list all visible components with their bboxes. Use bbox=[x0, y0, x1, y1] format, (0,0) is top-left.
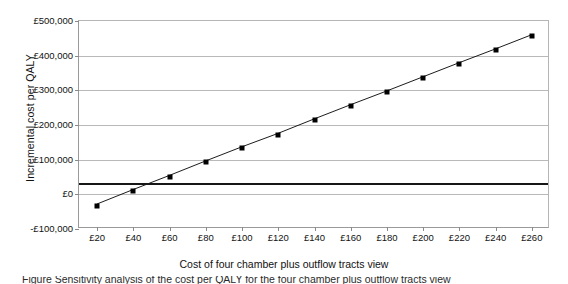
x-tick-label: £40 bbox=[125, 233, 141, 243]
x-tick-mark bbox=[242, 227, 243, 231]
threshold-line bbox=[79, 183, 548, 185]
x-tick-mark bbox=[496, 227, 497, 231]
x-tick-mark bbox=[170, 227, 171, 231]
data-point-marker bbox=[167, 175, 172, 180]
x-tick-mark bbox=[315, 227, 316, 231]
x-tick-mark bbox=[459, 227, 460, 231]
y-tick-label: £100,000 bbox=[33, 155, 73, 165]
figure-caption-clipped: Figure Sensitivity analysis of the cost … bbox=[0, 276, 568, 284]
x-tick-label: £260 bbox=[521, 233, 542, 243]
x-tick-label: £200 bbox=[413, 233, 434, 243]
y-tick-label: £0 bbox=[62, 190, 73, 200]
y-tick-mark bbox=[75, 229, 79, 230]
data-point-marker bbox=[276, 132, 281, 137]
x-tick-label: £80 bbox=[198, 233, 214, 243]
x-tick-label: £160 bbox=[340, 233, 361, 243]
data-point-marker bbox=[348, 103, 353, 108]
y-tick-label: -£100,000 bbox=[30, 224, 73, 234]
y-tick-label: £300,000 bbox=[33, 86, 73, 96]
y-axis-title: Incremental cost per QALY bbox=[24, 18, 36, 218]
figure-container: Incremental cost per QALY £500,000£400,0… bbox=[0, 0, 568, 284]
x-tick-label: £60 bbox=[162, 233, 178, 243]
data-point-marker bbox=[240, 146, 245, 151]
data-point-marker bbox=[457, 61, 462, 66]
x-tick-label: £120 bbox=[268, 233, 289, 243]
x-tick-mark bbox=[532, 227, 533, 231]
x-tick-mark bbox=[278, 227, 279, 231]
y-tick-label: £200,000 bbox=[33, 120, 73, 130]
data-point-marker bbox=[203, 160, 208, 165]
x-tick-label: £220 bbox=[449, 233, 470, 243]
data-point-marker bbox=[384, 90, 389, 95]
x-tick-label: £140 bbox=[304, 233, 325, 243]
data-point-marker bbox=[529, 33, 534, 38]
x-tick-mark bbox=[97, 227, 98, 231]
series-line bbox=[79, 21, 548, 227]
x-tick-label: £20 bbox=[89, 233, 105, 243]
plot-area: £500,000£400,000£300,000£200,000£100,000… bbox=[78, 20, 549, 228]
x-tick-mark bbox=[206, 227, 207, 231]
x-tick-label: £180 bbox=[376, 233, 397, 243]
caption-text: Figure Sensitivity analysis of the cost … bbox=[22, 276, 451, 284]
data-point-marker bbox=[421, 75, 426, 80]
x-axis-title: Cost of four chamber plus outflow tracts… bbox=[0, 258, 568, 270]
y-tick-label: £400,000 bbox=[33, 51, 73, 61]
data-point-marker bbox=[493, 47, 498, 52]
data-point-marker bbox=[95, 203, 100, 208]
x-tick-label: £100 bbox=[231, 233, 252, 243]
data-point-marker bbox=[131, 189, 136, 194]
data-point-marker bbox=[312, 118, 317, 123]
x-tick-mark bbox=[423, 227, 424, 231]
x-tick-mark bbox=[351, 227, 352, 231]
x-tick-mark bbox=[133, 227, 134, 231]
y-tick-label: £500,000 bbox=[33, 16, 73, 26]
x-tick-mark bbox=[387, 227, 388, 231]
x-tick-label: £240 bbox=[485, 233, 506, 243]
